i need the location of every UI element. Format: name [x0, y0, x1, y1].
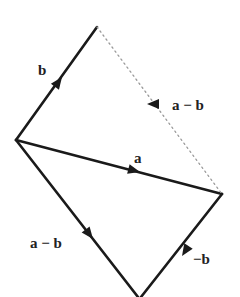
label-a-minus-b: a − b — [30, 235, 62, 251]
vector-diagram: b a a − b a − b −b — [0, 0, 240, 297]
vector-a-minus-b-line — [16, 140, 138, 297]
label-neg-b: −b — [193, 251, 210, 267]
label-a: a — [134, 150, 142, 166]
vector-a-line — [16, 140, 222, 194]
label-a-minus-b-dotted: a − b — [172, 97, 204, 113]
arrowhead-a-minus-b-dotted — [147, 99, 159, 109]
label-b: b — [38, 62, 46, 78]
vector-neg-b-line — [141, 194, 222, 297]
arrowhead-neg-b — [182, 243, 193, 256]
